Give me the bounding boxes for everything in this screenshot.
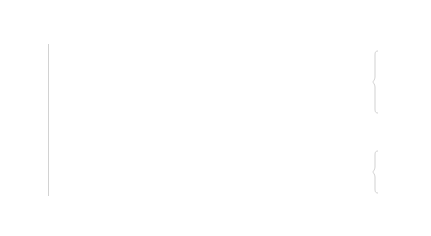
- bar-group: [49, 44, 371, 196]
- brace-top-icon: [372, 50, 380, 114]
- chart-legend: [0, 11, 431, 18]
- stacked-bar-chart: [0, 0, 431, 236]
- legend-item-superstars: [198, 11, 209, 18]
- legend-item-remainder: [223, 11, 234, 18]
- plot-area: [48, 44, 371, 196]
- legend-swatch-superstars-icon: [198, 11, 205, 18]
- legend-swatch-remainder-icon: [223, 11, 230, 18]
- brace-bottom-icon: [372, 150, 380, 194]
